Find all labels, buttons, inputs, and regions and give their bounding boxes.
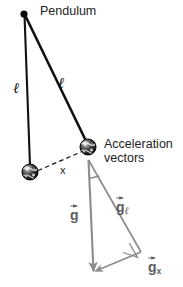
- length-label-left: ℓ: [13, 80, 19, 97]
- length-label-right: ℓ: [58, 75, 64, 92]
- pivot-point: [20, 10, 27, 17]
- vector-g-l-label: gℓ: [116, 198, 129, 216]
- vector-g-x-subscript: x: [157, 266, 162, 276]
- vector-g-x-base: g: [148, 260, 157, 276]
- vector-g-l-subscript: ℓ: [125, 205, 129, 216]
- rod-vertical: [25, 15, 31, 166]
- vector-g-l-base: g: [116, 200, 125, 216]
- pendulum-bob-rest: [22, 164, 39, 180]
- vector-g-label: g: [70, 206, 79, 224]
- pendulum-rods: [25, 15, 87, 166]
- page-title: Pendulum: [40, 4, 96, 18]
- vector-g-arrow: [89, 160, 94, 271]
- vector-g-base: g: [70, 208, 79, 224]
- pendulum-bob-displaced: [80, 139, 97, 155]
- vector-g-l-line: [89, 160, 142, 252]
- acceleration-label-line1: Acceleration: [104, 137, 173, 151]
- acceleration-vector-triangle: [89, 160, 142, 271]
- displacement-label: x: [60, 164, 66, 176]
- pendulum-diagram: Pendulum ℓ ℓ x Acceleration vectors g gℓ: [0, 0, 183, 287]
- acceleration-label-line2: vectors: [104, 151, 173, 165]
- vector-g-x-arrow: [96, 252, 142, 271]
- acceleration-vectors-label: Acceleration vectors: [104, 137, 173, 165]
- rod-displaced: [25, 15, 86, 141]
- vector-g-x-label: gx: [148, 258, 161, 277]
